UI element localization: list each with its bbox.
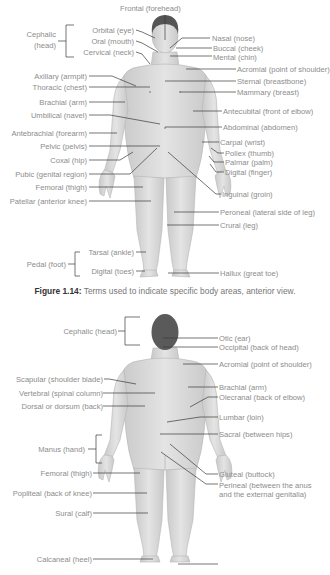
label-sternal: Sternal (breastbone)	[237, 77, 306, 86]
label-digital-toes: Digital (toes)	[91, 267, 134, 276]
label-brachial: Brachial (arm)	[39, 98, 87, 107]
label-pelvic: Pelvic (pelvis)	[40, 142, 87, 151]
label-olecranal: Olecranal (back of elbow)	[219, 393, 305, 402]
label-coxal: Coxal (hip)	[50, 156, 87, 165]
label-cervical: Cervical (neck)	[83, 48, 134, 57]
label-sacral: Sacral (between hips)	[219, 430, 292, 439]
label-gluteal: Gluteal (buttock)	[219, 470, 275, 479]
label-cephalic-sub: (head)	[34, 41, 56, 50]
label-crural: Crural (leg)	[220, 221, 258, 230]
label-post-brachial: Brachial (arm)	[219, 383, 267, 392]
label-palmar: Palmar (palm)	[225, 158, 273, 167]
label-digital-finger: Digital (finger)	[225, 168, 272, 177]
label-nasal: Nasal (nose)	[212, 34, 255, 43]
label-hallux: Hallux (great toe)	[220, 269, 278, 278]
label-lumbar: Lumbar (loin)	[219, 413, 264, 422]
label-occipital: Occipital (back of head)	[219, 343, 299, 352]
label-acromial: Acromial (point of shoulder)	[237, 65, 330, 74]
label-pedal: Pedal (foot)	[27, 260, 66, 269]
label-inguinal: Inguinal (groin)	[222, 190, 273, 199]
label-abdominal: Abdominal (abdomen)	[223, 123, 298, 132]
label-post-acromial: Acromial (point of shoulder)	[219, 360, 312, 369]
label-sural: Sural (calf)	[55, 509, 92, 518]
figure-caption: Figure 1.14: Terms used to indicate spec…	[0, 286, 330, 296]
label-vertebral: Vertebral (spinal column)	[19, 389, 103, 398]
label-antecubital: Antecubital (front of elbow)	[223, 107, 313, 116]
label-manus: Manus (hand)	[38, 445, 85, 454]
label-buccal: Buccal (cheek)	[213, 44, 263, 53]
label-oral: Oral (mouth)	[91, 37, 134, 46]
label-antebrachial: Antebrachial (forearm)	[11, 129, 87, 138]
label-peroneal: Peroneal (lateral side of leg)	[220, 208, 315, 217]
label-pubic: Pubic (genital region)	[15, 170, 87, 179]
label-axillary: Axillary (armpit)	[34, 72, 87, 81]
label-umbilical: Umbilical (navel)	[31, 111, 87, 120]
label-pollex: Pollex (thumb)	[225, 149, 274, 158]
label-frontal: Frontal (forehead)	[120, 4, 181, 13]
label-thoracic: Thoracic (chest)	[33, 83, 87, 92]
label-orbital: Orbital (eye)	[92, 26, 134, 35]
label-otic: Otic (ear)	[219, 334, 251, 343]
label-cephalic: Cephalic	[26, 30, 56, 39]
label-scapular: Scapular (shoulder blade)	[16, 375, 103, 384]
label-femoral: Femoral (thigh)	[36, 183, 87, 192]
label-mammary: Mammary (breast)	[237, 88, 299, 97]
label-dorsal: Dorsal or dorsum (back)	[22, 402, 103, 411]
label-perineal-line2: and the external genitalia)	[219, 490, 306, 499]
label-carpal: Carpal (wrist)	[220, 138, 265, 147]
figure-number: Figure 1.14:	[35, 286, 82, 296]
label-tarsal: Tarsal (ankle)	[88, 248, 134, 257]
label-post-femoral: Femoral (thigh)	[41, 469, 92, 478]
label-perineal: Perineal (between the anus	[219, 481, 311, 490]
label-calcaneal: Calcaneal (heel)	[37, 555, 92, 564]
posterior-hair	[152, 314, 179, 350]
label-mental: Mental (chin)	[213, 53, 257, 62]
label-patellar: Patellar (anterior knee)	[10, 197, 87, 206]
label-post-cephalic: Cephalic (head)	[63, 327, 117, 336]
figure-caption-text: Terms used to indicate specific body are…	[82, 286, 296, 296]
label-popliteal: Popliteal (back of knee)	[13, 489, 92, 498]
